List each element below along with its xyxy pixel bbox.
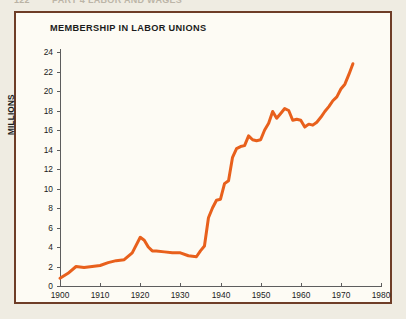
page-running-header: 122 PART 4 LABOR AND WAGES — [0, 0, 406, 11]
y-tick-label-24: 24 — [31, 48, 53, 56]
y-tick-label-6: 6 — [31, 224, 53, 232]
x-tick-1980 — [381, 283, 382, 287]
x-tick-label-1910: 1910 — [84, 291, 116, 300]
x-tick-label-1930: 1930 — [164, 291, 196, 300]
running-head-text: PART 4 LABOR AND WAGES — [52, 0, 182, 5]
y-tick-label-0: 0 — [31, 282, 53, 290]
page-number: 122 — [14, 0, 30, 5]
y-tick-label-20: 20 — [31, 87, 53, 95]
y-tick-label-14: 14 — [31, 146, 53, 154]
y-tick-label-8: 8 — [31, 204, 53, 212]
x-tick-label-1970: 1970 — [325, 291, 357, 300]
y-tick-label-18: 18 — [31, 107, 53, 115]
y-tick-label-16: 16 — [31, 126, 53, 134]
chart-plot — [60, 52, 381, 286]
y-axis-title: MILLIONS — [7, 94, 16, 135]
x-tick-label-1980: 1980 — [365, 291, 397, 300]
x-tick-label-1960: 1960 — [285, 291, 317, 300]
x-tick-label-1950: 1950 — [245, 291, 277, 300]
y-tick-label-4: 4 — [31, 243, 53, 251]
y-tick-label-10: 10 — [31, 185, 53, 193]
y-tick-label-2: 2 — [31, 263, 53, 271]
x-tick-label-1900: 1900 — [44, 291, 76, 300]
figure-frame: MEMBERSHIP IN LABOR UNIONS MILLIONS 0246… — [14, 11, 392, 304]
x-tick-label-1940: 1940 — [205, 291, 237, 300]
x-tick-label-1920: 1920 — [124, 291, 156, 300]
y-tick-label-12: 12 — [31, 165, 53, 173]
y-tick-label-22: 22 — [31, 68, 53, 76]
chart-title: MEMBERSHIP IN LABOR UNIONS — [50, 23, 206, 33]
union-membership-line — [60, 64, 353, 279]
